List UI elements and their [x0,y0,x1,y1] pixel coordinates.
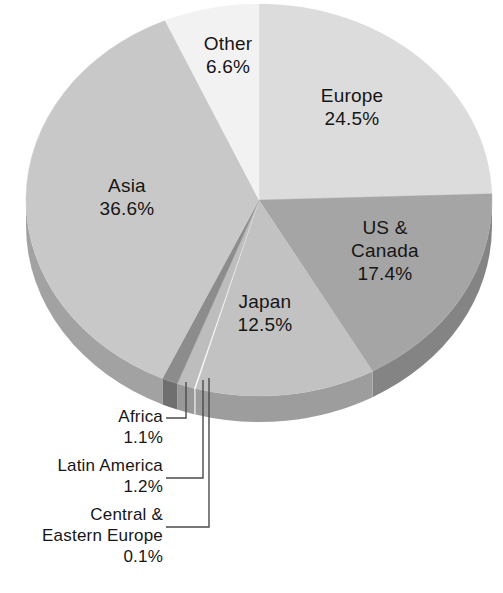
pie-slice-europe[interactable] [259,4,492,200]
callout-value-central-eastern-europe: 0.1% [13,546,163,567]
callout-name-central-eastern-europe-line2: Eastern Europe [13,525,163,546]
callout-label-central-eastern-europe: Central & Eastern Europe 0.1% [13,504,163,567]
callout-value-latin-america: 1.2% [23,476,163,497]
callout-label-latin-america: Latin America 1.2% [23,455,163,497]
callout-name-africa: Africa [43,406,163,427]
pie-chart: Other 6.6% Europe 24.5% US & Canada 17.4… [0,0,503,593]
pie-slices [26,4,492,396]
callout-name-latin-america: Latin America [23,455,163,476]
callout-name-central-eastern-europe-line1: Central & [13,504,163,525]
callout-value-africa: 1.1% [43,427,163,448]
callout-label-africa: Africa 1.1% [43,406,163,448]
pie-side-central-eastern-europe [194,388,195,414]
